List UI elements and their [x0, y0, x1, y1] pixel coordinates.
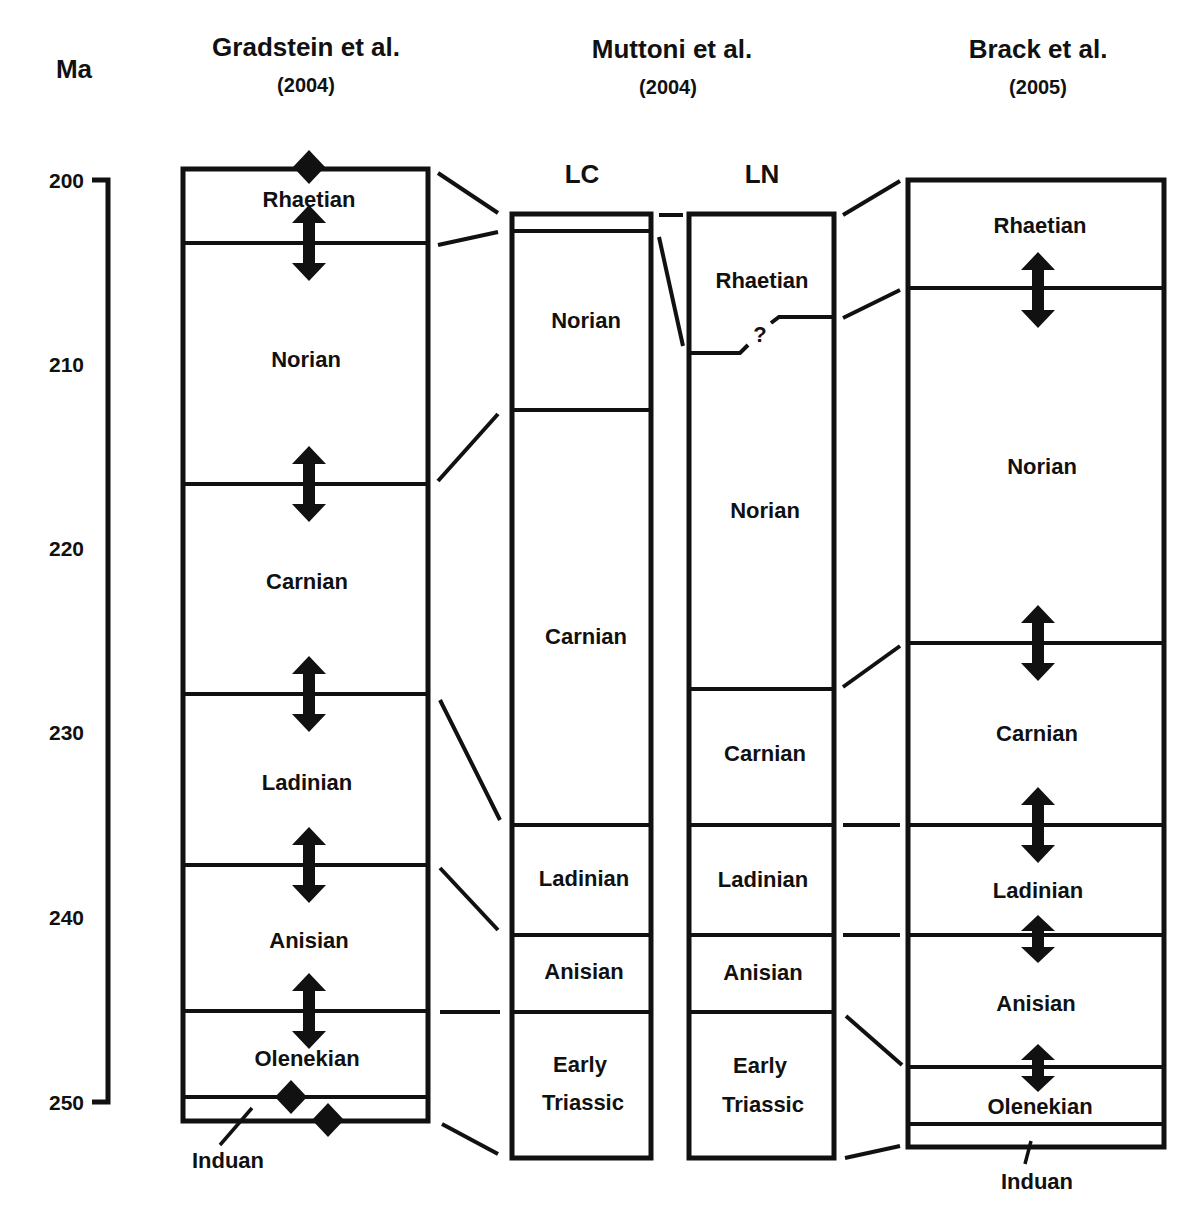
tick-230: 230	[49, 721, 84, 744]
stage-anisian: Anisian	[996, 991, 1075, 1016]
triassic-timescale-diagram: Ma Gradstein et al. (2004) Muttoni et al…	[0, 0, 1199, 1220]
stage-early: Early	[733, 1053, 788, 1078]
stage-ladinian: Ladinian	[539, 866, 629, 891]
gradstein-year: (2004)	[277, 74, 335, 96]
stage-olenekian: Olenekian	[254, 1046, 359, 1071]
brack-year: (2005)	[1009, 76, 1067, 98]
axis-unit-label: Ma	[56, 54, 93, 84]
brack-title: Brack et al.	[969, 34, 1108, 64]
stage-triassic: Triassic	[722, 1092, 804, 1117]
stage-norian: Norian	[551, 308, 621, 333]
stage-norian: Norian	[1007, 454, 1077, 479]
ln-label: LN	[745, 159, 780, 189]
brack-column: Rhaetian Norian Carnian Ladinian Anisian…	[908, 180, 1164, 1194]
age-axis: 200 210 220 230 240 250	[49, 169, 108, 1114]
stage-ladinian: Ladinian	[718, 867, 808, 892]
uncertain-boundary-mark: ?	[753, 322, 766, 347]
stage-anisian: Anisian	[269, 928, 348, 953]
stage-carnian: Carnian	[266, 569, 348, 594]
gradstein-title: Gradstein et al.	[212, 32, 400, 62]
stage-norian: Norian	[730, 498, 800, 523]
correlation-lines-middle	[659, 215, 683, 346]
stage-norian: Norian	[271, 347, 341, 372]
tick-240: 240	[49, 906, 84, 929]
stage-rhaetian: Rhaetian	[994, 213, 1087, 238]
correlation-lines-left	[438, 173, 500, 1154]
stage-carnian: Carnian	[545, 624, 627, 649]
stage-induan: Induan	[192, 1148, 264, 1173]
tick-200: 200	[49, 169, 84, 192]
stage-ladinian: Ladinian	[993, 878, 1083, 903]
muttoni-year: (2004)	[639, 76, 697, 98]
tick-220: 220	[49, 537, 84, 560]
lc-label: LC	[565, 159, 600, 189]
stage-anisian: Anisian	[723, 960, 802, 985]
gradstein-column: Rhaetian Norian Carnian Ladinian Anisian…	[183, 150, 428, 1173]
correlation-lines-right	[843, 181, 902, 1158]
stage-triassic: Triassic	[542, 1090, 624, 1115]
stage-olenekian: Olenekian	[987, 1094, 1092, 1119]
stage-ladinian: Ladinian	[262, 770, 352, 795]
tick-210: 210	[49, 353, 84, 376]
muttoni-title: Muttoni et al.	[592, 34, 752, 64]
muttoni-lc-column: Norian Carnian Ladinian Anisian Early Tr…	[512, 214, 651, 1158]
stage-carnian: Carnian	[996, 721, 1078, 746]
stage-anisian: Anisian	[544, 959, 623, 984]
stage-rhaetian: Rhaetian	[716, 268, 809, 293]
stage-rhaetian: Rhaetian	[263, 187, 356, 212]
stage-induan: Induan	[1001, 1169, 1073, 1194]
stage-early: Early	[553, 1052, 608, 1077]
tick-250: 250	[49, 1091, 84, 1114]
stage-carnian: Carnian	[724, 741, 806, 766]
muttoni-ln-column: ? Rhaetian Norian Carnian Ladinian Anisi…	[689, 214, 834, 1158]
